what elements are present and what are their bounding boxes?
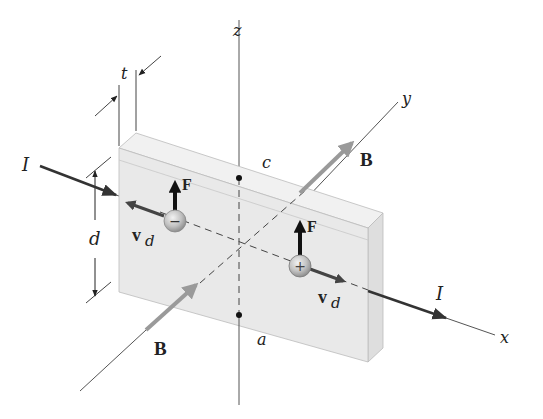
height-label: d bbox=[89, 228, 101, 249]
pos-force-label: F bbox=[307, 218, 317, 235]
point-a-label: a bbox=[257, 330, 267, 349]
d-tick-top bbox=[86, 157, 111, 178]
z-axis-label: z bbox=[232, 21, 242, 40]
point-c bbox=[236, 175, 242, 181]
y-axis-far bbox=[305, 102, 398, 200]
current-in-arrow bbox=[40, 166, 116, 195]
t-arrow-left bbox=[95, 96, 117, 116]
neg-force-label: F bbox=[182, 176, 192, 193]
hall-effect-diagram: t d I z c a B y B F − v d F + v d bbox=[0, 0, 543, 419]
y-axis-front bbox=[80, 330, 146, 391]
current-out-label: I bbox=[435, 283, 444, 304]
thickness-label: t bbox=[121, 64, 128, 83]
t-arrow-right bbox=[139, 56, 161, 75]
slab-side-face bbox=[368, 213, 383, 362]
b-field-back-arrow bbox=[300, 143, 352, 193]
b-field-back-label: B bbox=[360, 149, 373, 170]
current-in-label: I bbox=[21, 154, 30, 175]
point-c-label: c bbox=[262, 153, 271, 172]
negative-charge-sign: − bbox=[169, 213, 181, 229]
x-axis-label: x bbox=[500, 328, 509, 347]
x-axis-out bbox=[446, 318, 495, 335]
b-field-front-label: B bbox=[154, 338, 167, 359]
y-axis-label: y bbox=[401, 89, 412, 108]
point-a bbox=[236, 312, 242, 318]
d-tick-bottom bbox=[86, 282, 111, 303]
positive-charge-sign: + bbox=[294, 258, 306, 274]
